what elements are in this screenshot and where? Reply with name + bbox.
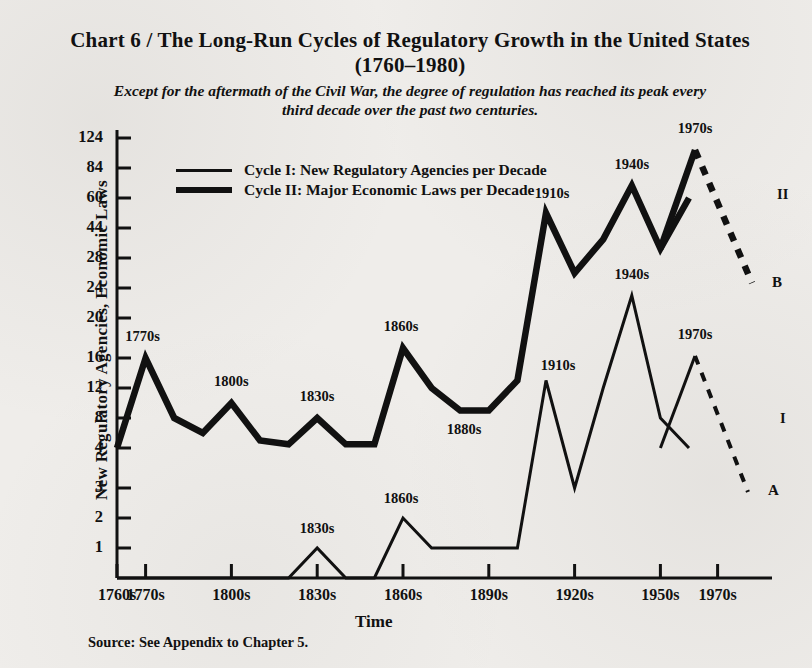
projection-dashed-cycle-2 bbox=[695, 150, 752, 283]
x-axis-label: Time bbox=[355, 612, 392, 632]
chart-page: Chart 6 / The Long-Run Cycles of Regulat… bbox=[0, 0, 812, 668]
legend-swatch-cycle-2-icon bbox=[176, 187, 232, 193]
legend-label-cycle-2: Cycle II: Major Economic Laws per Decade bbox=[244, 181, 534, 199]
legend-label-cycle-1: Cycle I: New Regulatory Agencies per Dec… bbox=[244, 161, 547, 179]
legend-item-cycle-2: Cycle II: Major Economic Laws per Decade bbox=[176, 180, 547, 200]
projection-dashed-cycle-1 bbox=[695, 356, 748, 492]
legend-swatch-cycle-1-icon bbox=[176, 169, 232, 172]
chart-title: Chart 6 / The Long-Run Cycles of Regulat… bbox=[60, 28, 760, 78]
legend-item-cycle-1: Cycle I: New Regulatory Agencies per Dec… bbox=[176, 160, 547, 180]
source-note: Source: See Appendix to Chapter 5. bbox=[88, 634, 308, 651]
chart-subtitle: Except for the aftermath of the Civil Wa… bbox=[110, 82, 710, 120]
series-line-cycle-1 bbox=[117, 296, 689, 579]
series-line-cycle-2 bbox=[117, 186, 689, 449]
y-axis-label: New Regulatory Agencies, Economic Laws bbox=[92, 130, 112, 550]
chart-legend: Cycle I: New Regulatory Agencies per Dec… bbox=[176, 160, 547, 200]
